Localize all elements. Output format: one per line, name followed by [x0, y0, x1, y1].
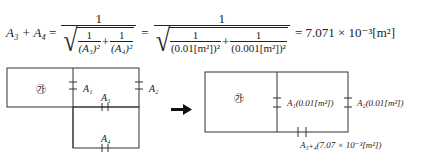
- label-a4: A₄: [100, 133, 111, 144]
- right-labels: ㉮ A₁(0.01[m²]) A₂(0.01[m²]) A₃₊₄(7.07 × …: [234, 93, 404, 150]
- label-a1-value: A₁(0.01[m²]): [286, 98, 334, 108]
- label-a2: A₂: [148, 83, 159, 94]
- right-room-label: ㉮: [234, 93, 244, 104]
- label-a1: A₁: [82, 83, 93, 94]
- left-room-label: ㉮: [36, 84, 46, 95]
- diagrams: ㉮ A₁ A₂ A₃ A₄ ㉮ A₁(0.01[m²]) A₂(0.01[m²]…: [0, 0, 423, 164]
- label-a3: A₃: [100, 92, 111, 103]
- arrow-right-icon: [171, 104, 192, 115]
- left-diagram: [7, 68, 143, 152]
- label-a34-value: A₃₊₄(7.07 × 10⁻³[m²]): [299, 140, 381, 150]
- label-a2-value: A₂(0.01[m²]): [356, 98, 404, 108]
- left-labels: ㉮ A₁ A₂ A₃ A₄: [36, 83, 159, 144]
